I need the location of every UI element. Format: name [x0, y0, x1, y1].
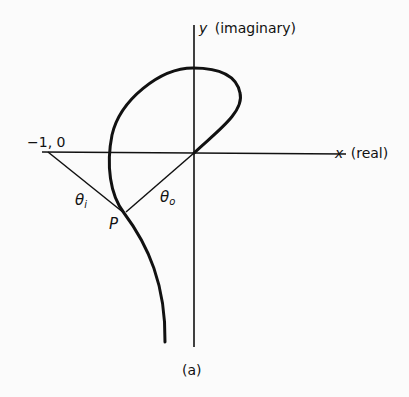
- figure-caption: (a): [182, 362, 202, 378]
- x-axis-label: x (real): [334, 145, 388, 161]
- theta-o-label: θo: [160, 188, 175, 207]
- theta-i-label: θi: [75, 191, 87, 210]
- y-axis-label: y (imaginary): [198, 20, 296, 36]
- critical-point-label: −1, 0: [27, 134, 65, 150]
- point-p-label: P: [109, 215, 119, 233]
- diagram-canvas: y (imaginary) x (real) −1, 0 θi θo P (a): [0, 0, 409, 397]
- nyquist-diagram: y (imaginary) x (real) −1, 0 θi θo P (a): [0, 0, 409, 397]
